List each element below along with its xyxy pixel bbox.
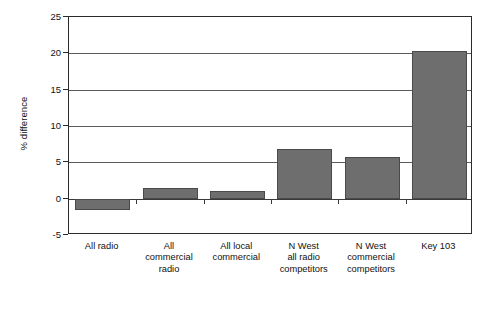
x-axis-category-label-line: commercial bbox=[337, 252, 404, 263]
x-axis-category-label: N Westall radiocompetitors bbox=[270, 241, 337, 275]
bar bbox=[75, 199, 130, 210]
x-axis-category-label-line: All radio bbox=[68, 241, 135, 252]
bar bbox=[345, 157, 400, 198]
gridline bbox=[69, 53, 471, 54]
bar bbox=[210, 191, 265, 199]
y-axis-tick-mark bbox=[63, 198, 68, 199]
x-axis-category-label-line: radio bbox=[135, 264, 202, 275]
x-axis-category-label: Key 103 bbox=[405, 241, 472, 252]
bar bbox=[143, 188, 198, 199]
y-axis-tick-mark bbox=[63, 89, 68, 90]
x-axis-category-label-line: N West bbox=[337, 241, 404, 252]
x-axis-category-label-line: all radio bbox=[270, 252, 337, 263]
gridline bbox=[69, 162, 471, 163]
x-axis-category-label-line: commercial bbox=[203, 252, 270, 263]
y-axis-tick-label: 15 bbox=[1, 83, 61, 94]
y-axis-tick-label: 5 bbox=[1, 156, 61, 167]
x-axis-category-label-line: commercial bbox=[135, 252, 202, 263]
x-axis-category-label-line: All local bbox=[203, 241, 270, 252]
gridline bbox=[69, 90, 471, 91]
x-axis-category-label-line: competitors bbox=[337, 264, 404, 275]
y-axis-tick-label: 25 bbox=[1, 11, 61, 22]
x-axis-category-label: Allcommercialradio bbox=[135, 241, 202, 275]
y-axis-tick-mark bbox=[63, 161, 68, 162]
bar bbox=[277, 149, 332, 198]
y-axis-tick-label: -5 bbox=[1, 229, 61, 240]
gridline bbox=[69, 126, 471, 127]
x-axis-tick-mark bbox=[136, 199, 137, 204]
x-axis-category-label: All radio bbox=[68, 241, 135, 252]
y-axis-tick-mark bbox=[63, 125, 68, 126]
y-axis-tick-mark bbox=[63, 16, 68, 17]
y-axis-tick-label: 20 bbox=[1, 47, 61, 58]
x-axis-tick-mark bbox=[338, 199, 339, 204]
y-axis-tick-label: 10 bbox=[1, 120, 61, 131]
x-axis-tick-mark bbox=[271, 199, 272, 204]
bar bbox=[412, 51, 467, 199]
x-axis-category-label: N Westcommercialcompetitors bbox=[337, 241, 404, 275]
x-axis-category-label-line: competitors bbox=[270, 264, 337, 275]
x-axis-category-label: All localcommercial bbox=[203, 241, 270, 264]
y-axis-tick-mark bbox=[63, 52, 68, 53]
x-axis-category-label-line: All bbox=[135, 241, 202, 252]
x-axis-tick-mark bbox=[204, 199, 205, 204]
figure-container: % difference -50510152025 All radioAllco… bbox=[0, 0, 483, 315]
x-axis-category-label-line: Key 103 bbox=[405, 241, 472, 252]
y-axis-tick-mark bbox=[63, 234, 68, 235]
x-axis-tick-mark bbox=[406, 199, 407, 204]
y-axis-tick-label: 0 bbox=[1, 192, 61, 203]
x-axis-category-label-line: N West bbox=[270, 241, 337, 252]
plot-area bbox=[68, 16, 472, 234]
